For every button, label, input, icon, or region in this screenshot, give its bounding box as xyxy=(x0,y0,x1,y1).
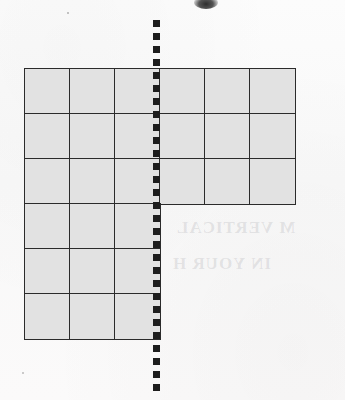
grid-cell-r2-c1 xyxy=(24,113,71,160)
grid-cell-r3-c1 xyxy=(24,158,71,205)
grid-cell-r3-c6 xyxy=(249,158,296,205)
grid-cell-r2-c2 xyxy=(69,113,116,160)
vertical-dashed-symmetry-line xyxy=(153,20,160,392)
grid-cell-r2-c5 xyxy=(204,113,251,160)
grid-cell-r5-c2 xyxy=(69,248,116,295)
grid-cell-r1-c1 xyxy=(24,68,71,115)
grid-cell-r2-c4 xyxy=(159,113,206,160)
grid-cell-r3-c2 xyxy=(69,158,116,205)
grid-cell-r4-c2 xyxy=(69,203,116,250)
grid-cell-r2-c6 xyxy=(249,113,296,160)
grid-cell-r1-c2 xyxy=(69,68,116,115)
grid-cell-r5-c1 xyxy=(24,248,71,295)
grid-cell-r3-c4 xyxy=(159,158,206,205)
grid-cell-r3-c5 xyxy=(204,158,251,205)
grid-cell-r6-c1 xyxy=(24,293,71,340)
l-shaped-grid-figure xyxy=(0,0,345,400)
grid-cell-r4-c1 xyxy=(24,203,71,250)
grid-cell-r1-c4 xyxy=(159,68,206,115)
grid-cell-r1-c5 xyxy=(204,68,251,115)
grid-cell-r6-c2 xyxy=(69,293,116,340)
worksheet-page: M VERTICAL IN YOUR H xyxy=(0,0,345,400)
grid-cell-r1-c6 xyxy=(249,68,296,115)
